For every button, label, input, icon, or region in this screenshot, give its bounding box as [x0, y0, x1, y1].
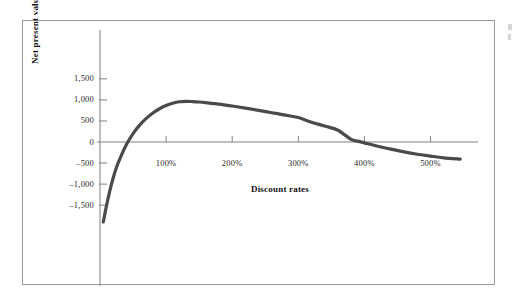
y-axis-title: Net present value (dollars)	[30, 0, 40, 64]
x-tick-label: 400%	[344, 158, 384, 168]
x-tick-label: 500%	[411, 158, 451, 168]
y-tick-label: –1,000	[48, 179, 94, 189]
x-tick-label: 100%	[146, 158, 186, 168]
chart-frame-border	[22, 20, 495, 285]
y-tick-label: –500	[48, 158, 94, 168]
y-tick-label: 1,500	[48, 73, 94, 83]
x-tick-label: 300%	[278, 158, 318, 168]
page-edge-mark	[508, 24, 512, 30]
y-tick-label: 0	[48, 137, 94, 147]
y-tick-label: 500	[48, 115, 94, 125]
y-tick-label: –1,500	[48, 200, 94, 210]
figure-root: 1,5001,0005000–500–1,000–1,500 100%200%3…	[0, 0, 522, 302]
y-tick-label: 1,000	[48, 94, 94, 104]
page-edge-mark	[508, 34, 511, 40]
x-axis-title: Discount rates	[220, 184, 340, 194]
x-tick-label: 200%	[212, 158, 252, 168]
